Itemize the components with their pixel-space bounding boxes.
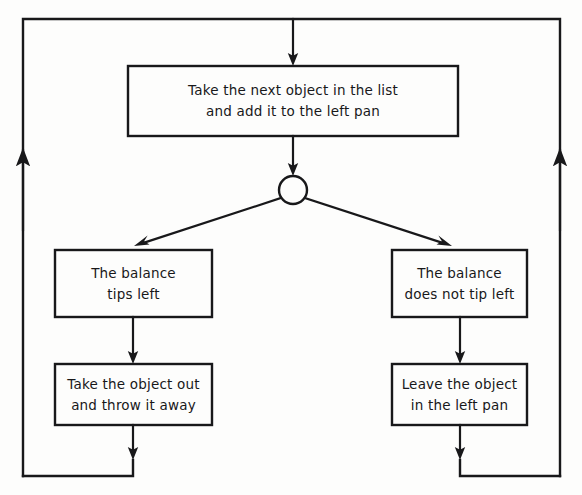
loop-return-frame <box>23 19 560 476</box>
node-action-remove-box <box>55 364 212 425</box>
node-process-add-box <box>128 66 458 136</box>
right-loop-return-path <box>460 460 560 476</box>
node-decision-circle <box>279 176 307 204</box>
node-cond-tips-left-box <box>55 250 212 317</box>
decision-to-left-shaft <box>143 198 281 243</box>
node-cond-not-tip-left-box <box>392 250 527 317</box>
flowchart-vector-layer <box>0 0 582 495</box>
left-loop-return-path <box>23 460 133 476</box>
decision-to-right-shaft <box>305 198 443 243</box>
node-action-keep-box <box>392 364 527 425</box>
flowchart-canvas: Take the next object in the list and add… <box>0 0 582 495</box>
